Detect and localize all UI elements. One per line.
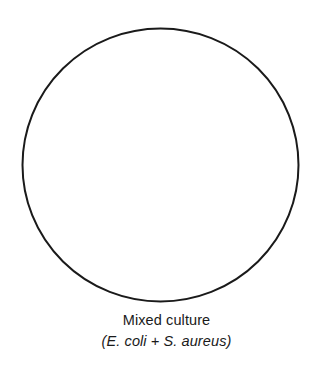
caption-primary-label: Mixed culture: [0, 310, 333, 331]
figure-caption: Mixed culture (E. coli + S. aureus): [0, 310, 333, 352]
petri-dish: [21, 27, 300, 303]
caption-organisms-label: (E. coli + S. aureus): [0, 331, 333, 352]
dish-outline: [23, 29, 299, 302]
petri-dish-circle-icon: [21, 27, 300, 303]
figure-container: Mixed culture (E. coli + S. aureus): [0, 0, 333, 369]
